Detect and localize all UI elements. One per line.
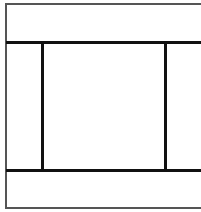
footer-region [7, 172, 201, 207]
header-region [7, 5, 201, 42]
right-sidebar-region [167, 44, 201, 169]
main-content-region [44, 44, 165, 169]
left-sidebar-region [7, 44, 41, 169]
